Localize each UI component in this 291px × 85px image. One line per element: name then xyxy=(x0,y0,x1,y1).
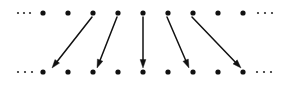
top-row xyxy=(17,10,273,15)
top-row-trailing-ellipsis xyxy=(257,12,273,14)
arrow-4 xyxy=(167,17,189,68)
bottom-row-dot-4 xyxy=(115,69,120,74)
top-row-dot-5 xyxy=(140,10,145,15)
top-row-trailing-ellipsis-dot xyxy=(271,12,273,14)
arrow-1 xyxy=(52,17,92,68)
top-row-trailing-ellipsis-dot xyxy=(264,12,266,14)
bottom-row-dot-6 xyxy=(165,69,170,74)
bottom-row-trailing-ellipsis-dot xyxy=(270,71,272,73)
bottom-row-trailing-ellipsis-dot xyxy=(263,71,265,73)
bottom-row-dot-7 xyxy=(190,69,195,74)
bottom-row-dot-2 xyxy=(65,69,70,74)
bottom-row-dot-9 xyxy=(240,69,245,74)
top-row-trailing-ellipsis-dot xyxy=(257,12,259,14)
top-row-dot-7 xyxy=(190,10,195,15)
bottom-row xyxy=(17,69,272,74)
bottom-row-leading-ellipsis-dot xyxy=(17,71,19,73)
arrow-2-shaft xyxy=(99,17,117,62)
top-row-leading-ellipsis-dot xyxy=(17,12,19,14)
top-row-dot-8 xyxy=(215,10,220,15)
arrow-2-head xyxy=(97,59,103,68)
arrow-5 xyxy=(192,17,241,68)
arrow-5-shaft xyxy=(192,17,237,64)
bottom-row-trailing-ellipsis-dot xyxy=(256,71,258,73)
bottom-row-leading-ellipsis-dot xyxy=(24,71,26,73)
top-row-leading-ellipsis-dot xyxy=(29,12,31,14)
arrow-4-head xyxy=(183,59,189,68)
top-row-leading-ellipsis-dot xyxy=(23,12,25,14)
arrow-4-shaft xyxy=(167,17,187,62)
top-row-dot-6 xyxy=(165,10,170,15)
arrow-3 xyxy=(140,17,146,68)
bottom-row-dot-1 xyxy=(40,69,45,74)
bottom-row-dot-3 xyxy=(90,69,95,74)
bottom-row-leading-ellipsis xyxy=(17,71,33,73)
dot-mapping-diagram xyxy=(0,0,291,85)
top-row-dot-4 xyxy=(115,10,120,15)
arrow-3-head xyxy=(140,60,146,69)
top-row-dot-9 xyxy=(240,10,245,15)
top-row-leading-ellipsis xyxy=(17,12,31,14)
bottom-row-dot-5 xyxy=(140,69,145,74)
diagram-canvas xyxy=(0,0,291,85)
bottom-row-leading-ellipsis-dot xyxy=(31,71,33,73)
bottom-row-trailing-ellipsis xyxy=(256,71,272,73)
bottom-row-dot-8 xyxy=(215,69,220,74)
top-row-dot-1 xyxy=(40,10,45,15)
arrow-2 xyxy=(97,17,117,68)
arrow-1-shaft xyxy=(56,17,92,63)
top-row-dot-3 xyxy=(90,10,95,15)
top-row-dot-2 xyxy=(65,10,70,15)
